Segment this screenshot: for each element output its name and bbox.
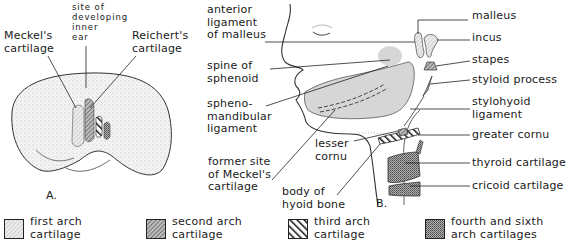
third-arch-swatch-icon bbox=[288, 219, 308, 239]
label-lesser-cornu: lesser cornu bbox=[315, 138, 349, 163]
legend-item-fourth-sixth-arch: fourth and sixth arch cartilages bbox=[425, 216, 543, 241]
label-meckels-cartilage: Meckel's cartilage bbox=[4, 30, 54, 55]
legend-item-second-arch: second arch cartilage bbox=[146, 216, 242, 241]
legend-item-first-arch: first arch cartilage bbox=[4, 216, 82, 241]
label-former-site-meckels: former site of Meckel's cartilage bbox=[208, 156, 271, 194]
label-greater-cornu: greater cornu bbox=[472, 129, 550, 142]
label-spine-of-sphenoid: spine of sphenoid bbox=[207, 60, 259, 85]
label-reicherts-cartilage: Reichert's cartilage bbox=[132, 30, 188, 55]
label-body-of-hyoid: body of hyoid bone bbox=[282, 186, 345, 211]
label-incus: incus bbox=[472, 32, 502, 45]
legend-label: third arch cartilage bbox=[314, 216, 370, 241]
label-inner-ear-site: site of developing inner ear bbox=[72, 2, 128, 42]
second-arch-swatch-icon bbox=[146, 219, 166, 239]
label-thyroid-cartilage: thyroid cartilage bbox=[472, 157, 566, 170]
label-malleus: malleus bbox=[472, 10, 516, 23]
label-anterior-ligament-malleus: anterior ligament of malleus bbox=[207, 4, 266, 42]
label-stylohyoid-ligament: stylohyoid ligament bbox=[472, 96, 531, 121]
panel-b-caption: B. bbox=[376, 198, 387, 211]
label-stapes: stapes bbox=[472, 54, 509, 67]
label-cricoid-cartilage: cricoid cartilage bbox=[472, 180, 564, 193]
legend-item-third-arch: third arch cartilage bbox=[288, 216, 370, 241]
fourth-sixth-arch-swatch-icon bbox=[425, 219, 445, 239]
embryo-drawing bbox=[12, 46, 172, 175]
panel-a-caption: A. bbox=[46, 190, 57, 203]
legend-label: first arch cartilage bbox=[30, 216, 82, 241]
first-arch-swatch-icon bbox=[4, 219, 24, 239]
head-neck-drawing bbox=[265, 4, 470, 205]
label-sphenomandibular-ligament: spheno- mandibular ligament bbox=[207, 98, 272, 136]
label-styloid-process: styloid process bbox=[472, 74, 557, 87]
legend-label: fourth and sixth arch cartilages bbox=[451, 216, 543, 241]
legend-label: second arch cartilage bbox=[172, 216, 242, 241]
